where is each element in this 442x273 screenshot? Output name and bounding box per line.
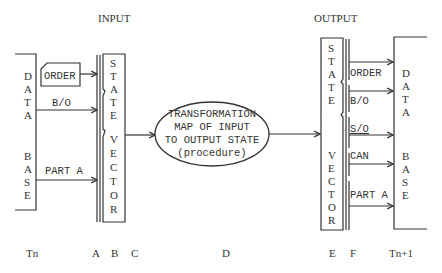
svg-text:C: C: [328, 175, 335, 187]
output-database: [394, 37, 427, 229]
svg-text:A: A: [328, 68, 336, 80]
transformation-procedure: TRANSFORMATION MAP OF INPUT TO OUTPUT ST…: [155, 102, 269, 166]
label-c: C: [131, 247, 138, 259]
svg-text:CAN: CAN: [350, 150, 369, 162]
svg-text:ORDER: ORDER: [44, 70, 76, 82]
output-state-vector: S T A T E V E C T O R: [321, 38, 343, 230]
svg-text:T: T: [328, 55, 335, 67]
svg-text:E: E: [328, 162, 335, 174]
svg-text:A: A: [402, 80, 410, 92]
svg-text:S: S: [24, 176, 30, 188]
svg-text:E: E: [402, 189, 409, 201]
label-e: E: [329, 247, 336, 259]
label-tn: Tn: [26, 247, 39, 259]
svg-text:(procedure): (procedure): [177, 147, 246, 159]
svg-text:D: D: [402, 67, 410, 79]
svg-text:S: S: [110, 57, 116, 69]
output-record-bo: B/O: [349, 91, 393, 107]
svg-text:PART A: PART A: [350, 189, 389, 201]
label-b: B: [111, 247, 118, 259]
input-header: INPUT: [98, 12, 131, 24]
output-header: OUTPUT: [314, 12, 358, 24]
svg-text:T: T: [110, 96, 117, 108]
svg-text:T: T: [110, 70, 117, 82]
input-database-label: D A T A B A S E: [24, 70, 32, 201]
svg-text:O: O: [328, 201, 336, 213]
label-tn-plus-1: Tn+1: [389, 247, 413, 259]
svg-text:A: A: [110, 83, 118, 95]
svg-text:C: C: [110, 161, 117, 173]
input-record-order: ORDER: [41, 63, 97, 86]
svg-text:B/O: B/O: [350, 95, 369, 107]
svg-text:V: V: [110, 133, 118, 145]
svg-text:MAP OF INPUT: MAP OF INPUT: [174, 121, 250, 133]
svg-text:S: S: [402, 176, 408, 188]
svg-text:R: R: [110, 203, 118, 215]
svg-text:ORDER: ORDER: [350, 67, 382, 79]
data-flow-diagram: INPUT OUTPUT D A T A B A S E ORDER B/O P…: [0, 0, 442, 273]
svg-text:V: V: [328, 149, 336, 161]
svg-text:E: E: [110, 147, 117, 159]
svg-text:T: T: [24, 96, 31, 108]
svg-text:B: B: [402, 150, 409, 162]
svg-text:E: E: [24, 189, 31, 201]
svg-text:T: T: [328, 188, 335, 200]
label-f: F: [350, 247, 356, 259]
svg-text:D: D: [24, 70, 32, 82]
svg-text:TRANSFORMATION: TRANSFORMATION: [168, 108, 256, 120]
svg-text:T: T: [328, 81, 335, 93]
output-record-so: S/O: [349, 123, 393, 135]
label-d: D: [222, 247, 230, 259]
label-a: A: [92, 247, 100, 259]
svg-text:B/O: B/O: [52, 97, 71, 109]
svg-text:A: A: [24, 83, 32, 95]
svg-text:T: T: [110, 175, 117, 187]
output-record-part-a: PART A: [349, 189, 393, 206]
svg-text:TO OUTPUT STATE: TO OUTPUT STATE: [165, 134, 260, 146]
input-state-vector: S T A T E V E C T O R: [103, 54, 125, 222]
svg-text:A: A: [402, 163, 410, 175]
svg-text:T: T: [402, 93, 409, 105]
svg-text:PART A: PART A: [45, 165, 84, 177]
output-database-label: D A T A B A S E: [402, 67, 410, 201]
svg-text:S/O: S/O: [350, 123, 369, 135]
stage-labels: Tn A B C D E F Tn+1: [26, 247, 413, 259]
svg-text:A: A: [24, 163, 32, 175]
output-record-can: CAN: [349, 150, 393, 164]
svg-text:A: A: [24, 109, 32, 121]
svg-text:B: B: [24, 150, 31, 162]
output-record-order: ORDER: [349, 62, 393, 79]
input-record-bo: B/O: [36, 97, 97, 110]
svg-text:E: E: [110, 109, 117, 121]
svg-text:S: S: [328, 42, 334, 54]
svg-text:E: E: [328, 94, 335, 106]
output-line-f: [346, 39, 349, 230]
input-record-part-a: PART A: [36, 165, 97, 180]
svg-text:A: A: [402, 106, 410, 118]
svg-text:R: R: [328, 214, 336, 226]
svg-text:O: O: [110, 189, 118, 201]
input-line-a: [97, 55, 100, 222]
